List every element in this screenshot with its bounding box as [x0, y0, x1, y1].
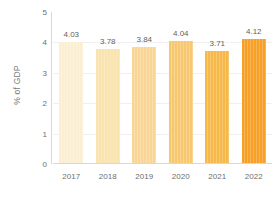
bar[interactable]: 4.12 — [242, 39, 266, 164]
bar-value-label: 3.71 — [209, 39, 225, 48]
x-axis-tick-label: 2019 — [126, 172, 163, 181]
bar[interactable]: 3.84 — [132, 47, 156, 164]
bar-slot: 3.71 — [199, 12, 236, 164]
plot-frame: 5 4 3 2 1 0 4.03 3.78 — [36, 12, 272, 164]
y-axis-tick-label: 4 — [43, 38, 47, 47]
y-axis-title-text: % of GDP — [12, 65, 22, 104]
y-axis-tick-label: 2 — [43, 99, 47, 108]
bar-slot: 4.03 — [53, 12, 90, 164]
y-axis-tick-label: 3 — [43, 68, 47, 77]
bar-slot: 3.84 — [126, 12, 163, 164]
bar[interactable]: 4.04 — [169, 41, 193, 164]
bar-slot: 4.12 — [236, 12, 273, 164]
y-axis-title: % of GDP — [0, 0, 34, 170]
y-axis-tick-label: 0 — [43, 160, 47, 169]
bar-series: 4.03 3.78 3.84 4.04 — [53, 12, 272, 164]
bar-chart: % of GDP 5 4 3 2 1 0 4.03 — [0, 0, 278, 198]
bar-value-label: 3.84 — [136, 35, 152, 44]
x-axis-tick-labels: 2017 2018 2019 2020 2021 2022 — [53, 172, 272, 188]
x-axis-line — [53, 163, 272, 164]
x-axis-tick-label: 2018 — [90, 172, 127, 181]
plot-area: 4.03 3.78 3.84 4.04 — [53, 12, 272, 164]
bar-slot: 3.78 — [90, 12, 127, 164]
y-axis-tick-label: 5 — [43, 8, 47, 17]
bar[interactable]: 3.71 — [205, 51, 229, 164]
bar-value-label: 3.78 — [100, 37, 116, 46]
bar-value-label: 4.04 — [173, 29, 189, 38]
y-axis-line — [51, 12, 52, 164]
y-axis-tick-label: 1 — [43, 129, 47, 138]
bar-slot: 4.04 — [163, 12, 200, 164]
x-axis-tick-label: 2017 — [53, 172, 90, 181]
bar-value-label: 4.12 — [246, 27, 262, 36]
x-axis-tick-label: 2020 — [163, 172, 200, 181]
x-axis-tick-label: 2021 — [199, 172, 236, 181]
bar-value-label: 4.03 — [63, 30, 79, 39]
y-axis-tick-labels: 5 4 3 2 1 0 — [36, 12, 50, 164]
bar[interactable]: 4.03 — [59, 42, 83, 165]
x-axis-tick-label: 2022 — [236, 172, 273, 181]
bar[interactable]: 3.78 — [96, 49, 120, 164]
